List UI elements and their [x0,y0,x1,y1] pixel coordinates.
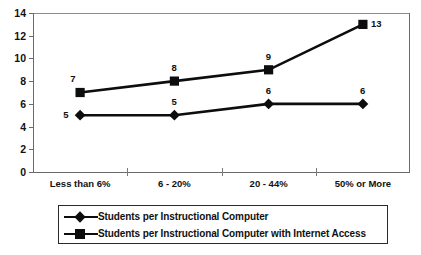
chart-container: 02468101214 Less than 6%6 - 20%20 - 44%5… [0,0,421,255]
data-point-label: 9 [266,52,271,62]
x-axis-category-label: 20 - 44% [222,178,316,189]
x-axis-category-label: Less than 6% [33,178,127,189]
diamond-marker-icon [64,210,98,223]
y-axis-tick-label: 2 [2,144,26,154]
y-axis-tick [29,149,34,150]
y-axis-tick [29,58,34,59]
x-axis-tick [222,168,223,176]
plot-area [33,13,410,172]
legend-item-students-per-computer-internet[interactable]: Students per Instructional Computer with… [64,225,366,242]
y-axis-tick-label: 12 [2,31,26,41]
square-marker-icon [64,227,98,240]
data-point-label: 8 [171,63,176,73]
y-axis-tick-label: 4 [2,122,26,132]
page-text-artifact [0,249,421,255]
x-axis-category-label: 50% or More [316,178,410,189]
data-point-label: 13 [371,19,382,29]
data-point-label: 6 [360,86,365,96]
y-axis-tick [29,81,34,82]
y-axis-tick-label: 10 [2,53,26,63]
y-axis-tick [29,172,34,173]
x-axis-tick [316,168,317,176]
chart-legend: Students per Instructional Computer Stud… [58,205,388,244]
y-axis-tick [29,36,34,37]
legend-item-label: Students per Instructional Computer with… [98,228,366,239]
y-axis-tick [29,127,34,128]
y-axis-tick [29,104,34,105]
x-axis-tick [127,168,128,176]
y-axis-tick-label: 8 [2,76,26,86]
legend-item-label: Students per Instructional Computer [98,211,268,222]
data-point-label: 5 [171,97,176,107]
y-axis-tick-label: 6 [2,99,26,109]
y-axis-tick-label: 14 [2,8,26,18]
x-axis-category-label: 6 - 20% [127,178,221,189]
legend-item-students-per-computer[interactable]: Students per Instructional Computer [64,208,268,225]
data-point-label: 7 [70,74,75,84]
y-axis-tick [29,13,34,14]
data-point-label: 5 [63,110,68,120]
y-axis-tick-label: 0 [2,167,26,177]
data-point-label: 6 [266,86,271,96]
